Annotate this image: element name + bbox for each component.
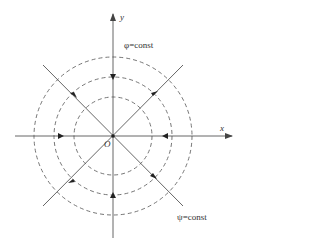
- phi-const-label: φ=const: [124, 41, 153, 50]
- origin-label: O: [104, 140, 111, 149]
- psi-const-label: ψ=const: [177, 213, 207, 222]
- x-axis-label: x: [220, 124, 224, 133]
- origin-point: [111, 134, 115, 138]
- y-axis-label: y: [120, 13, 124, 22]
